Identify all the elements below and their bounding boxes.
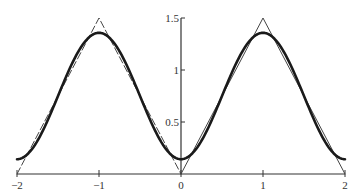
series-line-0 [17, 18, 181, 174]
x-tick-label: −1 [93, 179, 105, 191]
axes [17, 18, 345, 177]
x-tick-label: 0 [178, 179, 184, 191]
y-tick-label: 1.5 [165, 12, 179, 24]
x-tick-label: 1 [260, 179, 266, 191]
series-line-1 [181, 18, 345, 174]
chart-canvas: −2−10120.511.5 [0, 0, 361, 196]
x-tick-label: −2 [11, 179, 23, 191]
y-tick-label: 1 [174, 64, 180, 76]
x-tick-label: 2 [342, 179, 348, 191]
tick-labels: −2−10120.511.5 [11, 12, 348, 191]
y-tick-label: 0.5 [165, 116, 179, 128]
